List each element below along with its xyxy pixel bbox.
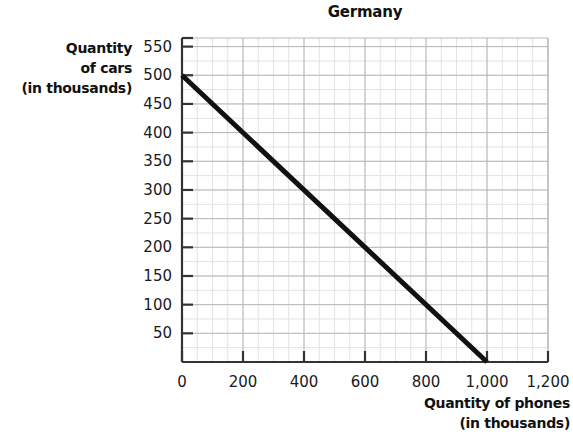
x-tick-label: 1,200 bbox=[527, 374, 570, 390]
y-tick-label: 100 bbox=[130, 297, 172, 313]
y-tick-label: 500 bbox=[130, 67, 172, 83]
y-tick-label: 400 bbox=[130, 125, 172, 141]
y-tick-label: 550 bbox=[130, 39, 172, 55]
y-tick-label: 150 bbox=[130, 268, 172, 284]
x-tick-label: 800 bbox=[412, 374, 441, 390]
x-tick-label: 1,000 bbox=[466, 374, 509, 390]
y-tick-label: 350 bbox=[130, 153, 172, 169]
y-tick-label: 200 bbox=[130, 239, 172, 255]
x-tick-label: 200 bbox=[229, 374, 258, 390]
x-tick-label: 0 bbox=[177, 374, 187, 390]
chart-figure: Germany Quantity of cars (in thousands) … bbox=[0, 0, 573, 438]
x-tick-label: 400 bbox=[290, 374, 319, 390]
grid-major-lines bbox=[182, 38, 548, 362]
y-tick-label: 450 bbox=[130, 96, 172, 112]
y-tick-label: 50 bbox=[130, 325, 172, 341]
y-tick-label: 250 bbox=[130, 211, 172, 227]
x-tick-label: 600 bbox=[351, 374, 380, 390]
y-tick-label: 300 bbox=[130, 182, 172, 198]
